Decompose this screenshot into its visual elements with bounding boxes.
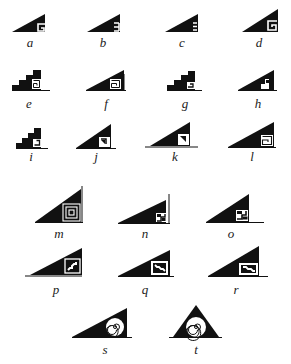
label-q: q — [135, 283, 155, 297]
label-p: p — [46, 283, 66, 297]
panel-c — [163, 10, 203, 34]
label-o: o — [221, 227, 241, 241]
label-g: g — [175, 97, 195, 111]
panel-r — [206, 242, 270, 279]
triangle-hook-square-baseline-icon — [144, 118, 200, 150]
label-f: f — [96, 97, 116, 111]
panel-q — [116, 246, 176, 279]
label-b: b — [93, 36, 113, 50]
label-a: a — [20, 36, 40, 50]
panel-t — [168, 303, 224, 341]
triangle-hook-square-icon — [74, 120, 118, 150]
triangle-spiral-square-icon — [84, 66, 128, 92]
triangle-diagonal-step-box-icon — [24, 244, 86, 279]
panel-a — [10, 10, 50, 34]
triangle-diagonal-step-box-icon — [206, 242, 270, 279]
panel-s — [70, 303, 134, 341]
panel-p — [24, 244, 86, 279]
isosceles-triangle-spiral-icon — [168, 303, 224, 341]
label-j: j — [86, 150, 106, 164]
label-m: m — [49, 227, 69, 241]
panel-e — [10, 66, 52, 92]
panel-b — [85, 10, 125, 34]
stepped-hook-icon — [165, 68, 205, 92]
triangle-e-fret-icon — [85, 10, 125, 34]
triangle-diagonal-step-box-icon — [116, 246, 176, 279]
triangle-scroll-fret-icon — [240, 5, 282, 34]
panel-f — [84, 66, 128, 92]
triangle-e-fret-icon — [163, 10, 203, 34]
triangle-g-fret-icon — [10, 10, 50, 34]
label-i: i — [21, 150, 41, 164]
label-k: k — [165, 150, 185, 164]
panel-d — [240, 5, 282, 34]
label-h: h — [248, 97, 268, 111]
panel-j — [74, 120, 118, 150]
panel-g — [165, 68, 205, 92]
label-l: l — [242, 150, 262, 164]
panel-n — [116, 192, 174, 226]
panel-m — [33, 184, 85, 226]
panel-l — [226, 118, 278, 150]
triangle-stepped-notch-icon — [236, 66, 280, 92]
stepped-hook-icon — [14, 124, 50, 150]
label-s: s — [95, 343, 115, 357]
label-d: d — [249, 36, 269, 50]
label-t: t — [186, 343, 206, 357]
label-n: n — [135, 227, 155, 241]
triangle-nested-spiral-icon — [33, 184, 85, 226]
stepped-spiral-square-icon — [10, 66, 52, 92]
triangle-z-fret-baseline-icon — [204, 188, 266, 226]
triangle-z-fret-icon — [116, 192, 174, 226]
panel-k — [144, 118, 200, 150]
label-r: r — [226, 283, 246, 297]
panel-h — [236, 66, 280, 92]
triangle-spiral-icon — [70, 303, 134, 341]
triangle-scroll-square-icon — [226, 118, 278, 150]
label-e: e — [19, 97, 39, 111]
label-c: c — [172, 36, 192, 50]
panel-o — [204, 188, 266, 226]
panel-i — [14, 124, 50, 150]
